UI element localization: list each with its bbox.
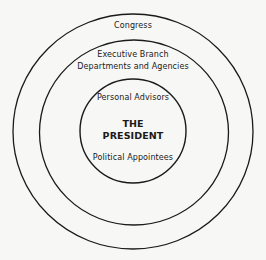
label-personal-advisors: Personal Advisors [0,93,266,103]
label-political-appointees: Political Appointees [0,153,266,163]
center-label-president: PRESIDENT [0,130,266,141]
label-executive-branch: Executive Branch [0,50,266,60]
label-departments-agencies: Departments and Agencies [0,62,266,72]
label-congress: Congress [0,21,266,31]
center-label-the: THE [0,118,266,129]
